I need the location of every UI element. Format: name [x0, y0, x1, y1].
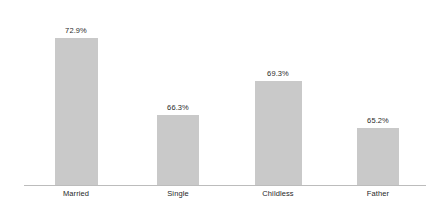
bar-childless[interactable] [255, 81, 302, 185]
x-axis-line [24, 185, 426, 186]
category-label-single: Single [148, 189, 208, 198]
bar-chart: 72.9% Married 66.3% Single 69.3% Childle… [0, 0, 448, 217]
bar-father[interactable] [357, 128, 399, 185]
category-label-father: Father [348, 189, 408, 198]
bar-single[interactable] [157, 115, 199, 185]
plot-area: 72.9% Married 66.3% Single 69.3% Childle… [0, 0, 448, 217]
category-label-married: Married [46, 189, 106, 198]
value-label-father: 65.2% [348, 116, 408, 125]
category-label-childless: Childless [248, 189, 308, 198]
value-label-childless: 69.3% [248, 69, 308, 78]
bar-married[interactable] [55, 38, 98, 185]
value-label-single: 66.3% [148, 103, 208, 112]
value-label-married: 72.9% [46, 26, 106, 35]
